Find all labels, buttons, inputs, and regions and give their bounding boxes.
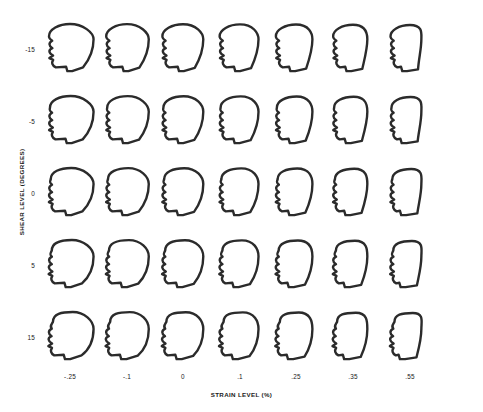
face-glyph [379,233,441,299]
face-outline [162,168,203,215]
y-axis-tick: -15 [5,46,35,53]
face-glyph [322,233,384,299]
face-glyph [209,89,271,155]
face-outline [390,169,421,215]
y-axis-tick: 5 [5,262,35,269]
face-glyph-figure: SHEAR LEVEL (DEGREES) STRAIN LEVEL (%) -… [0,0,483,412]
face-outline [275,313,312,360]
face-glyph [96,17,158,83]
face-outline [333,313,368,359]
face-outline [333,97,367,143]
face-outline [49,168,94,215]
face-outline [220,168,259,215]
face-outline [49,240,94,287]
face-glyph [322,305,384,371]
face-outline [276,97,312,144]
x-axis-tick: -.25 [50,373,90,380]
face-outline [333,25,367,71]
x-axis-tick: -.1 [107,373,147,380]
face-outline [390,241,421,287]
face-glyph [379,89,441,155]
y-axis-tick: -5 [5,118,35,125]
face-outline [106,24,149,71]
face-glyph [265,305,327,371]
x-axis-tick: .55 [390,373,430,380]
face-outline [162,24,203,71]
face-outline [276,25,313,72]
face-glyph [152,161,214,227]
y-axis-tick: 15 [5,334,35,341]
face-outline [163,96,204,143]
face-glyph [379,161,441,227]
face-outline [333,169,367,215]
y-axis-tick: 0 [5,190,35,197]
face-glyph [322,89,384,155]
face-outline [391,97,422,143]
face-glyph [209,233,271,299]
face-glyph [209,161,271,227]
face-glyph [96,305,158,371]
face-glyph [322,17,384,83]
face-glyph [39,161,101,227]
face-glyph [379,17,441,83]
face-glyph [322,161,384,227]
face-outline [106,312,149,359]
face-glyph [152,233,214,299]
face-outline [162,240,203,287]
face-glyph [96,233,158,299]
face-glyph [209,305,271,371]
face-glyph [39,305,101,371]
face-outline [276,169,313,216]
x-axis-tick: .25 [276,373,316,380]
face-outline [106,96,148,143]
face-outline [390,313,422,359]
face-glyph [39,17,101,83]
face-outline [333,241,368,287]
face-glyph [39,233,101,299]
face-glyph [265,17,327,83]
face-outline [391,25,422,71]
face-outline [220,96,259,143]
face-outline [219,240,258,287]
face-glyph [265,233,327,299]
face-glyph [96,89,158,155]
face-glyph [209,17,271,83]
x-axis-tick: 0 [163,373,203,380]
x-axis-tick: .35 [333,373,373,380]
face-outline [276,241,313,288]
face-glyph [265,89,327,155]
face-outline [106,168,149,215]
x-axis-tick: .1 [220,373,260,380]
face-outline [162,312,204,359]
face-outline [49,96,93,143]
face-glyph [152,17,214,83]
face-outline [49,24,94,71]
face-outline [219,312,258,359]
face-glyph [152,305,214,371]
face-outline [220,24,259,71]
face-glyph [39,89,101,155]
face-glyph [152,89,214,155]
face-outline [48,312,93,359]
face-outline [106,240,149,287]
face-glyph [265,161,327,227]
face-glyph [96,161,158,227]
x-axis-title: STRAIN LEVEL (%) [0,391,483,398]
face-glyph [379,305,441,371]
